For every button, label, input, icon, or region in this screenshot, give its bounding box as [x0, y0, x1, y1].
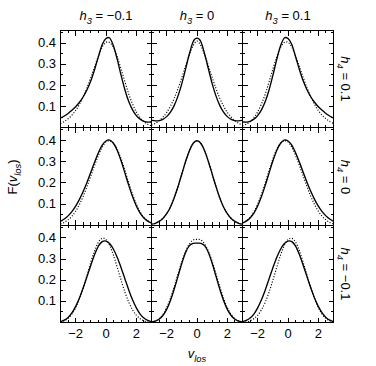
gaussian-fit-curve: [243, 42, 334, 126]
gauss-hermite-curve: [152, 141, 243, 225]
y-tick-label: 0.1: [18, 293, 56, 308]
gauss-hermite-curve: [243, 241, 334, 322]
x-tick-label: 2: [213, 326, 241, 341]
plot-frame: [61, 31, 334, 323]
panel: [61, 140, 152, 224]
gauss-hermite-curve: [61, 140, 152, 223]
gaussian-fit-curve: [61, 42, 152, 126]
row-header-0: h4 = 0.1: [335, 56, 353, 101]
x-tick-label: 0: [183, 326, 211, 341]
panel: [152, 141, 243, 225]
y-tick-label: 0.1: [18, 99, 56, 114]
column-header-0: h3 = −0.1: [61, 8, 152, 26]
gaussian-fit-curve: [152, 141, 243, 225]
row-header-2: h4 = −0.1: [335, 247, 353, 300]
column-header-1: h3 = 0: [152, 8, 243, 26]
panel: [152, 239, 243, 322]
panel: [243, 37, 334, 126]
gauss-hermite-curve: [243, 37, 334, 122]
x-tick-label: −2: [62, 326, 90, 341]
y-tick-label: 0.4: [18, 35, 56, 50]
y-tick-label: 0.2: [18, 272, 56, 287]
y-tick-label: 0.4: [18, 230, 56, 245]
x-axis-label: vlos: [61, 346, 334, 364]
gauss-hermite-curve: [61, 37, 152, 122]
y-tick-label: 0.2: [18, 175, 56, 190]
y-axis-label: F(vlos): [5, 159, 23, 194]
gauss-hermite-curve: [61, 241, 152, 322]
y-tick-label: 0.3: [18, 56, 56, 71]
x-tick-label: −2: [153, 326, 181, 341]
column-header-2: h3 = 0.1: [243, 8, 334, 26]
panel: [243, 140, 334, 224]
x-tick-label: 2: [122, 326, 150, 341]
gauss-hermite-curve: [243, 140, 334, 223]
gaussian-fit-curve: [61, 141, 152, 224]
plot-canvas: [0, 0, 376, 366]
panel: [243, 238, 334, 322]
gaussian-fit-curve: [152, 239, 243, 322]
y-tick-label: 0.1: [18, 196, 56, 211]
gaussian-fit-curve: [243, 141, 334, 224]
panel: [61, 238, 152, 322]
gaussian-fit-curve: [152, 41, 243, 125]
y-tick-label: 0.3: [18, 251, 56, 266]
y-tick-label: 0.3: [18, 154, 56, 169]
figure-root: h3 = −0.1h3 = 0h3 = 0.1h4 = 0.1h4 = 0h4 …: [0, 0, 376, 366]
x-tick-label: 0: [274, 326, 302, 341]
y-tick-label: 0.2: [18, 78, 56, 93]
panel: [152, 38, 243, 125]
row-header-1: h4 = 0: [335, 159, 353, 193]
x-tick-label: −2: [244, 326, 272, 341]
gauss-hermite-curve: [152, 38, 243, 121]
gauss-hermite-curve: [152, 243, 243, 322]
x-tick-label: 0: [92, 326, 120, 341]
panel: [61, 37, 152, 126]
y-tick-label: 0.4: [18, 133, 56, 148]
x-tick-label: 2: [304, 326, 332, 341]
